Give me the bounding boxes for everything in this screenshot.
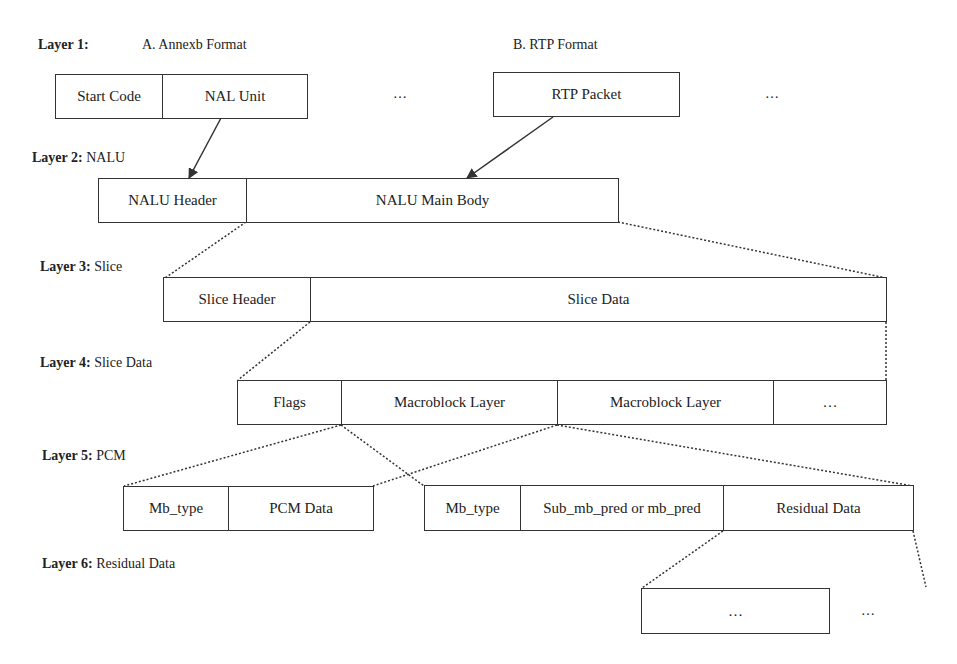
residual-ellipsis: … [861, 603, 876, 619]
mb-type-cell: Mb_type [425, 486, 521, 530]
residual-data-cell: Residual Data [724, 486, 913, 530]
dotted-slice-left [238, 322, 310, 380]
slice-data-cell: Slice Data [311, 278, 886, 321]
rtp-packet-cell: RTP Packet [494, 73, 679, 116]
nal-unit-cell: NAL Unit [163, 75, 307, 118]
sub-mb-pred-cell: Sub_mb_pred or mb_pred [521, 486, 724, 530]
dotted-mb2-right [557, 425, 913, 486]
slice-header-cell: Slice Header [164, 278, 311, 321]
nalu-header-cell: NALU Header [99, 179, 247, 222]
rtp-format-title: B. RTP Format [513, 37, 598, 53]
layer-3-label: Layer 3: Slice [40, 259, 122, 275]
annexb-format-title: A. Annexb Format [142, 37, 247, 53]
slice-data-ellipsis-cell: … [774, 381, 886, 424]
annexb-box: Start Code NAL Unit [55, 74, 308, 119]
rtp-box: RTP Packet [493, 72, 680, 117]
dotted-mb2-left [373, 425, 557, 486]
dotted-mb1-right [341, 425, 424, 486]
residual-ellipsis-cell: … [642, 589, 829, 633]
macroblock-box: Mb_type Sub_mb_pred or mb_pred Residual … [424, 485, 914, 531]
nalu-box: NALU Header NALU Main Body [98, 178, 619, 223]
residual-box: … [641, 588, 830, 634]
dotted-residual-left [642, 531, 723, 588]
dotted-nalu-left [165, 222, 246, 278]
annexb-ellipsis: … [393, 86, 408, 102]
macroblock-layer-cell-2: Macroblock Layer [558, 381, 774, 424]
arrow-nal-unit-to-nalu [189, 118, 221, 178]
arrow-rtp-to-nalu [467, 117, 553, 178]
rtp-ellipsis: … [765, 86, 780, 102]
dotted-residual-right [913, 531, 926, 587]
macroblock-layer-cell-1: Macroblock Layer [342, 381, 558, 424]
pcm-data-cell: PCM Data [229, 487, 373, 530]
nalu-main-body-cell: NALU Main Body [247, 179, 618, 222]
flags-cell: Flags [238, 381, 342, 424]
layer-5-label: Layer 5: PCM [42, 448, 126, 464]
pcm-box: Mb_type PCM Data [123, 486, 374, 531]
dotted-nalu-right [618, 222, 886, 278]
pcm-mb-type-cell: Mb_type [124, 487, 229, 530]
layer-4-label: Layer 4: Slice Data [40, 355, 152, 371]
slice-data-box: Flags Macroblock Layer Macroblock Layer … [237, 380, 887, 425]
dotted-mb1-left [124, 425, 341, 486]
layer-6-label: Layer 6: Residual Data [42, 556, 175, 572]
slice-box: Slice Header Slice Data [163, 277, 887, 322]
layer-1-label: Layer 1: [38, 37, 89, 53]
start-code-cell: Start Code [56, 75, 163, 118]
layer-2-label: Layer 2: NALU [32, 150, 125, 166]
